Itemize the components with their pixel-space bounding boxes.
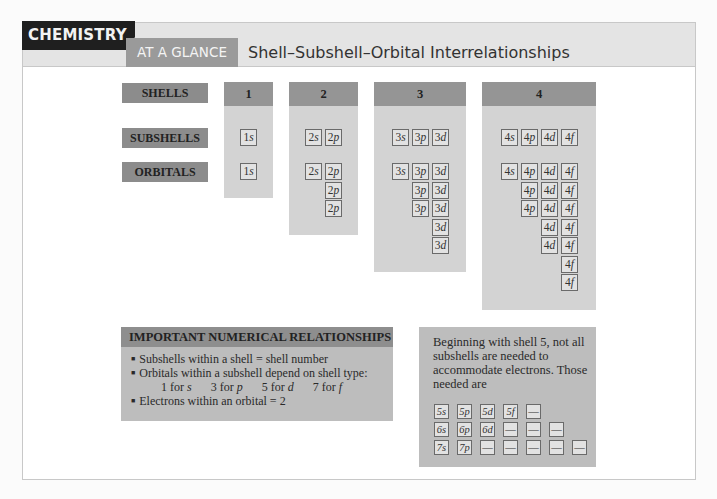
orbital-box: 4p [521,163,538,180]
important-list-cont: Electrons within an orbital = 2 [121,394,393,408]
shell-column-2: 2 2s2p2s2p2p2p [289,82,358,235]
orbital-counts: 1 for s 3 for p 5 for d 7 for f [121,380,393,394]
orbital-box: 4f [561,163,578,180]
subshell-box: 6p [457,422,472,437]
orbital-count-p: 3 for p [211,380,243,394]
shell-header: 1 [224,82,273,106]
subshell-box: 6s [434,422,449,437]
orbital-box: 2p [325,163,342,180]
orbital-box: 2s [305,163,322,180]
subshell-box: 5f [503,404,518,419]
orbital-box: 4f [561,219,578,236]
shell-header: 4 [482,82,596,106]
subshell-box: 3p [412,129,429,146]
subshell-box: 4f [561,129,578,146]
shell-header: 2 [289,82,358,106]
orbital-box: 4p [521,182,538,199]
orbital-box: 3p [412,200,429,217]
orbital-box: 3p [412,163,429,180]
unused-subshell-box: — [526,404,541,419]
unused-subshell-box: — [526,440,541,455]
unused-subshell-box: — [503,422,518,437]
orbital-box: 4d [541,163,558,180]
orbital-box: 1s [240,163,257,180]
subshell-box: 1s [240,129,257,146]
orbital-box: 4f [561,274,578,291]
subshell-box: 2p [325,129,342,146]
unused-subshell-box: — [480,440,495,455]
orbital-box: 4p [521,200,538,217]
unused-subshell-box: — [503,440,518,455]
orbital-box: 3p [412,182,429,199]
orbital-count-s: 1 for s [161,380,192,394]
list-item: Orbitals within a subshell depend on she… [131,366,393,380]
higher-shells-box: Beginning with shell 5, not all subshell… [419,327,596,467]
orbital-box: 4d [541,200,558,217]
list-item: Subshells within a shell = shell number [131,352,393,366]
subshell-box: 3s [392,129,409,146]
orbital-box: 3d [432,182,449,199]
orbital-box: 3d [432,200,449,217]
subshell-box: 4d [541,129,558,146]
higher-shells-text: Beginning with shell 5, not all subshell… [433,335,593,391]
shell-column-3: 3 3s3p3d3s3p3p3p3d3d3d3d3d [374,82,466,272]
row-label-shells: SHELLS [122,83,208,103]
orbital-box: 2p [325,200,342,217]
subshell-box: 7s [434,440,449,455]
important-relationships-box: IMPORTANT NUMERICAL RELATIONSHIPS Subshe… [121,327,393,421]
at-a-glance-tag: AT A GLANCE [126,38,238,67]
orbital-box: 4f [561,237,578,254]
orbital-box: 4f [561,182,578,199]
subshell-box: 7p [457,440,472,455]
subshell-box: 5p [457,404,472,419]
unused-subshell-box: — [526,422,541,437]
shell-header: 3 [374,82,466,106]
orbital-box: 4f [561,256,578,273]
orbital-box: 4d [541,237,558,254]
subshell-box: 3d [432,129,449,146]
orbital-box: 2p [325,182,342,199]
subshell-box: 4s [501,129,518,146]
subshell-box: 6d [480,422,495,437]
unused-subshell-box: — [549,440,564,455]
row-label-subshells: SUBSHELLS [122,128,208,148]
orbital-box: 4s [501,163,518,180]
important-heading: IMPORTANT NUMERICAL RELATIONSHIPS [121,327,393,347]
subshell-box: 2s [305,129,322,146]
unused-subshell-box: — [549,422,564,437]
orbital-box: 3d [432,163,449,180]
subshell-box: 5d [480,404,495,419]
subshell-box: 4p [521,129,538,146]
orbital-box: 3d [432,237,449,254]
orbital-box: 3d [432,219,449,236]
shell-column-1: 1 1s1s [224,82,273,198]
orbital-count-f: 7 for f [313,380,342,394]
orbital-box: 4d [541,182,558,199]
row-label-orbitals: ORBITALS [122,162,208,182]
subshell-box: 5s [434,404,449,419]
important-list: Subshells within a shell = shell number … [121,352,393,380]
page-title: Shell–Subshell–Orbital Interrelationship… [248,38,570,67]
orbital-count-d: 5 for d [262,380,294,394]
shell-column-4: 4 4s4p4d4f4s4p4p4p4d4d4d4d4d4f4f4f4f4f4f… [482,82,596,310]
orbital-box: 4f [561,200,578,217]
orbital-box: 3s [392,163,409,180]
unused-subshell-box: — [572,440,587,455]
chemistry-tag: CHEMISTRY [22,21,135,50]
list-item: Electrons within an orbital = 2 [131,394,393,408]
orbital-box: 4d [541,219,558,236]
